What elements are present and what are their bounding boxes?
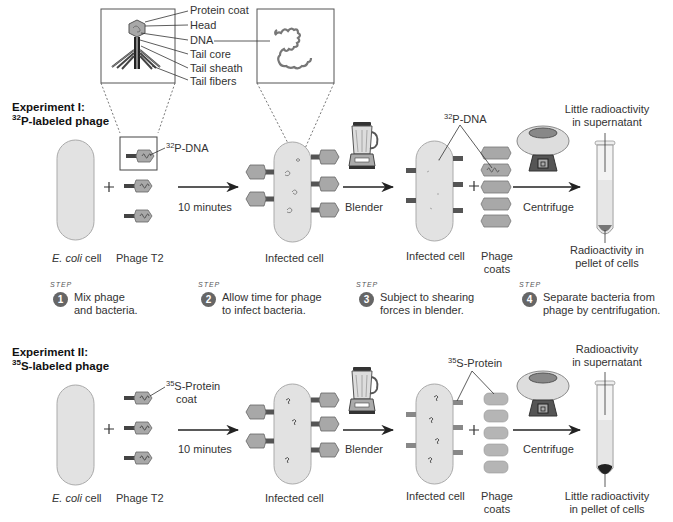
ecoli-rest: cell <box>82 252 102 264</box>
step-text: Subject to shearingforces in blender. <box>380 291 474 317</box>
label-text: S-Protein <box>456 357 502 369</box>
coats-label-2: Phagecoats <box>480 490 514 516</box>
coats-line2: coats <box>480 263 514 276</box>
arrow1-label: 10 minutes <box>178 201 232 214</box>
arrow3-label: Centrifuge <box>523 201 574 214</box>
ecoli-cell-2 <box>57 385 94 485</box>
ecoli-label-1: E. coli cell <box>52 252 102 265</box>
test-tube-1 <box>595 133 615 243</box>
phage-label-2: Phage T2 <box>116 492 164 505</box>
step-line1: Mix phage <box>74 291 138 304</box>
label-line2: coat <box>166 393 220 406</box>
phage-label-1: Phage T2 <box>116 252 164 265</box>
supernatant-line2: in supernatant <box>555 356 659 369</box>
ecoli-italic: E. coli <box>52 492 82 504</box>
experiment2-title: Experiment II: 35S-labeled phage <box>12 345 109 373</box>
step-word: STEP <box>519 278 541 291</box>
step-text: Separate bacteria fromphage by centrifug… <box>543 291 660 317</box>
step-line1: Separate bacteria from <box>543 291 660 304</box>
isotope: 32 <box>12 113 21 122</box>
arrow2-label-2: Blender <box>345 443 383 456</box>
label-text: P-DNA <box>174 142 208 154</box>
coats-label-1: Phagecoats <box>480 250 514 276</box>
step-number-icon: 2 <box>201 292 216 307</box>
ecoli-cell-1 <box>57 140 94 240</box>
step-line2: phage by centrifugation. <box>543 304 660 317</box>
ecoli-label-2: E. coli cell <box>52 492 102 505</box>
step-line2: forces in blender. <box>380 304 474 317</box>
pellet-line1: Radioactivity in <box>555 244 659 257</box>
top-label-35s-protein: 35S-Protein <box>448 357 502 370</box>
experiment2-title-line1: Experiment II: <box>12 345 109 359</box>
infected-label-4: Infected cell <box>406 490 465 503</box>
experiment1-title-line1: Experiment I: <box>12 100 109 114</box>
top-label-32p-dna: 32P-DNA <box>444 113 487 126</box>
label-tail-core: Tail core <box>190 48 231 61</box>
step-number-icon: 4 <box>522 292 537 307</box>
pellet-line2: pellet of cells <box>555 257 659 270</box>
label-protein-coat: Protein coat <box>190 4 249 17</box>
label-text: S-Protein <box>174 380 220 392</box>
pellet-line2: in pellet of cells <box>555 503 659 516</box>
supernatant-line1: Radioactivity <box>555 343 659 356</box>
coats-line1: Phage <box>480 250 514 263</box>
ecoli-italic: E. coli <box>52 252 82 264</box>
pellet-label-2: Little radioactivityin pellet of cells <box>555 490 659 516</box>
supernatant-label-1: Little radioactivityin supernatant <box>555 103 659 129</box>
label-32p-dna: 32P-DNA <box>166 142 209 155</box>
pellet-label-1: Radioactivity inpellet of cells <box>555 244 659 270</box>
step-line1: Allow time for phage <box>222 291 322 304</box>
experiment1-title-line2: 32P-labeled phage <box>12 114 109 128</box>
step-line2: and bacteria. <box>74 304 138 317</box>
step-text: Allow time for phageto infect bacteria. <box>222 291 322 317</box>
title-rest: S-labeled phage <box>21 360 109 372</box>
coats-line2: coats <box>480 503 514 516</box>
infected-label-3: Infected cell <box>265 492 324 505</box>
step-word: STEP <box>198 278 220 291</box>
step-number-icon: 1 <box>53 292 68 307</box>
supernatant-line2: in supernatant <box>555 116 659 129</box>
label-head: Head <box>190 19 216 32</box>
label-tail-sheath: Tail sheath <box>190 62 243 75</box>
infected-cell-4 <box>416 384 453 484</box>
step-word: STEP <box>356 278 378 291</box>
arrow1-label-2: 10 minutes <box>178 443 232 456</box>
arrow2-label: Blender <box>345 201 383 214</box>
pellet-line1: Little radioactivity <box>555 490 659 503</box>
supernatant-line1: Little radioactivity <box>555 103 659 116</box>
label-text: P-DNA <box>452 113 486 125</box>
experiment2-title-line2: 35S-labeled phage <box>12 359 109 373</box>
experiment1-title: Experiment I: 32P-labeled phage <box>12 100 109 128</box>
infected-cell-3 <box>274 384 311 484</box>
infected-cell-2 <box>416 141 453 241</box>
infected-label-1: Infected cell <box>265 252 324 265</box>
step-line2: to infect bacteria. <box>222 304 322 317</box>
label-tail-fibers: Tail fibers <box>190 75 236 88</box>
arrow3-label-2: Centrifuge <box>523 443 574 456</box>
test-tube-2 <box>595 372 615 487</box>
label-35s-protein-coat: 35S-Proteincoat <box>166 380 220 406</box>
isotope: 35 <box>12 358 21 367</box>
step-word: STEP <box>50 278 72 291</box>
step-number-icon: 3 <box>359 292 374 307</box>
label-dna: DNA <box>190 34 213 47</box>
step-text: Mix phageand bacteria. <box>74 291 138 317</box>
supernatant-label-2: Radioactivityin supernatant <box>555 343 659 369</box>
coats-line1: Phage <box>480 490 514 503</box>
ecoli-rest: cell <box>82 492 102 504</box>
step-line1: Subject to shearing <box>380 291 474 304</box>
title-rest: P-labeled phage <box>21 115 109 127</box>
infected-label-2: Infected cell <box>406 250 465 263</box>
